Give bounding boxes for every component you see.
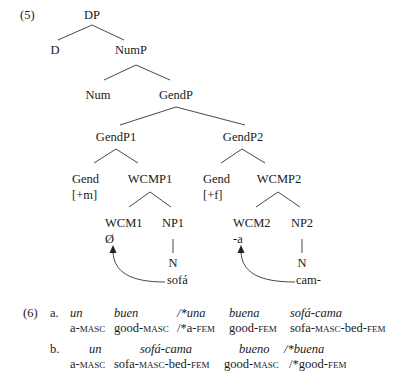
gloss-6a-1: a-masc bbox=[70, 322, 105, 335]
word-cam: cam- bbox=[296, 274, 321, 287]
example-6a-label: a. bbox=[50, 307, 59, 320]
wcm1-value: Ø bbox=[105, 233, 114, 246]
gloss-6a-5: sofa-masc-bed-fem bbox=[290, 322, 385, 335]
node-d: D bbox=[50, 44, 59, 57]
node-n2: N bbox=[297, 257, 306, 270]
node-dp: DP bbox=[84, 9, 100, 22]
word-sofa: sofá bbox=[167, 274, 188, 287]
example-number-6: (6) bbox=[23, 307, 38, 320]
node-gendp: GendP bbox=[159, 89, 193, 102]
word-6b-2: sofá-cama bbox=[140, 343, 192, 356]
word-6a-4: buena bbox=[229, 307, 260, 320]
word-6a-2: buen bbox=[114, 307, 138, 320]
word-6a-3: /*una bbox=[177, 307, 205, 320]
node-wcmp2: WCMP2 bbox=[257, 173, 301, 186]
word-6b-3: bueno bbox=[239, 343, 270, 356]
node-gendp1: GendP1 bbox=[96, 131, 136, 144]
word-6a-5: sofá-cama bbox=[290, 307, 342, 320]
gloss-6a-2: good-masc bbox=[114, 322, 169, 335]
gloss-6b-2: sofa-masc-bed-fem bbox=[114, 358, 209, 371]
node-gend1: Gend bbox=[72, 173, 99, 186]
node-num: Num bbox=[86, 89, 111, 102]
node-wcm1: WCM1 bbox=[105, 217, 143, 230]
word-6b-1: un bbox=[89, 343, 102, 356]
node-gendp2: GendP2 bbox=[223, 131, 263, 144]
gloss-6a-3: /*a-fem bbox=[177, 322, 215, 335]
wcm2-value: -a bbox=[233, 233, 243, 246]
node-gend2: Gend bbox=[203, 173, 230, 186]
gloss-6a-4: good-fem bbox=[229, 322, 277, 335]
example-6b-label: b. bbox=[50, 343, 59, 356]
node-wcm2: WCM2 bbox=[233, 217, 271, 230]
node-wcmp1: WCMP1 bbox=[128, 173, 172, 186]
feature-masc: [+m] bbox=[72, 189, 97, 202]
node-np1: NP1 bbox=[162, 217, 184, 230]
gloss-6b-4: /*good-fem bbox=[289, 358, 346, 371]
tree-branches bbox=[0, 0, 411, 300]
node-nump: NumP bbox=[115, 44, 147, 57]
word-6a-1: un bbox=[70, 307, 83, 320]
gloss-6b-1: a-masc bbox=[70, 358, 105, 371]
example-number-5: (5) bbox=[20, 9, 35, 22]
word-6b-4: /*buena bbox=[284, 343, 324, 356]
gloss-6b-3: good-masc bbox=[224, 358, 279, 371]
node-np2: NP2 bbox=[291, 217, 313, 230]
node-n1: N bbox=[168, 257, 177, 270]
feature-fem: [+f] bbox=[203, 189, 223, 202]
